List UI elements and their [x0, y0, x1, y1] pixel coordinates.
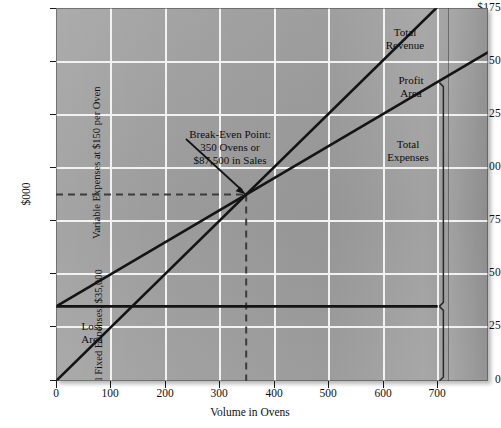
total-expenses-label: Total Expenses — [362, 138, 454, 164]
fixed-expenses-bracket — [439, 306, 443, 381]
variable-expenses-bracket-label: Variable Expenses at $150 per Oven — [91, 89, 103, 239]
y-axis-title: $000 — [20, 164, 32, 224]
total-expenses-label-line-2: Expenses — [362, 151, 454, 164]
total-revenue-label-line-2: Revenue — [362, 39, 448, 52]
x-tick-label-100: 100 — [90, 388, 130, 400]
loss-area-label: Loss Area — [62, 320, 122, 346]
profit-area-label: Profit Area — [372, 74, 450, 100]
x-tick-label-600: 600 — [363, 388, 403, 400]
x-tick-label-400: 400 — [254, 388, 294, 400]
break-even-line-2: 350 Ovens or — [164, 141, 296, 154]
loss-area-label-line-1: Loss — [62, 320, 122, 333]
x-axis-title: Volume in Ovens — [150, 406, 350, 418]
profit-area-label-line-1: Profit — [372, 74, 450, 87]
break-even-chart: $000 $175 150 125 100 75 50 25 0 0 100 2… — [0, 0, 501, 428]
x-tick-label-300: 300 — [199, 388, 239, 400]
x-tick-label-200: 200 — [145, 388, 185, 400]
loss-area-label-line-2: Area — [62, 333, 122, 346]
total-revenue-label-line-1: Total — [362, 26, 448, 39]
total-revenue-label: Total Revenue — [362, 26, 448, 52]
profit-area-label-line-2: Area — [372, 87, 450, 100]
total-expenses-label-line-1: Total — [362, 138, 454, 151]
break-even-line-3: $87,500 in Sales — [164, 154, 296, 167]
x-tick-label-0: 0 — [36, 388, 76, 400]
break-even-line-1: Break-Even Point: — [164, 128, 296, 141]
plot-area: Break-Even Point: 350 Ovens or $87,500 i… — [56, 8, 488, 381]
break-even-annotation: Break-Even Point: 350 Ovens or $87,500 i… — [164, 128, 296, 167]
x-tick-label-500: 500 — [308, 388, 348, 400]
fixed-expenses-bracket-label: Total Fixed Expenses, $35,000 — [93, 259, 105, 381]
x-tick-label-700: 700 — [417, 388, 457, 400]
variable-expenses-bracket — [439, 83, 443, 307]
